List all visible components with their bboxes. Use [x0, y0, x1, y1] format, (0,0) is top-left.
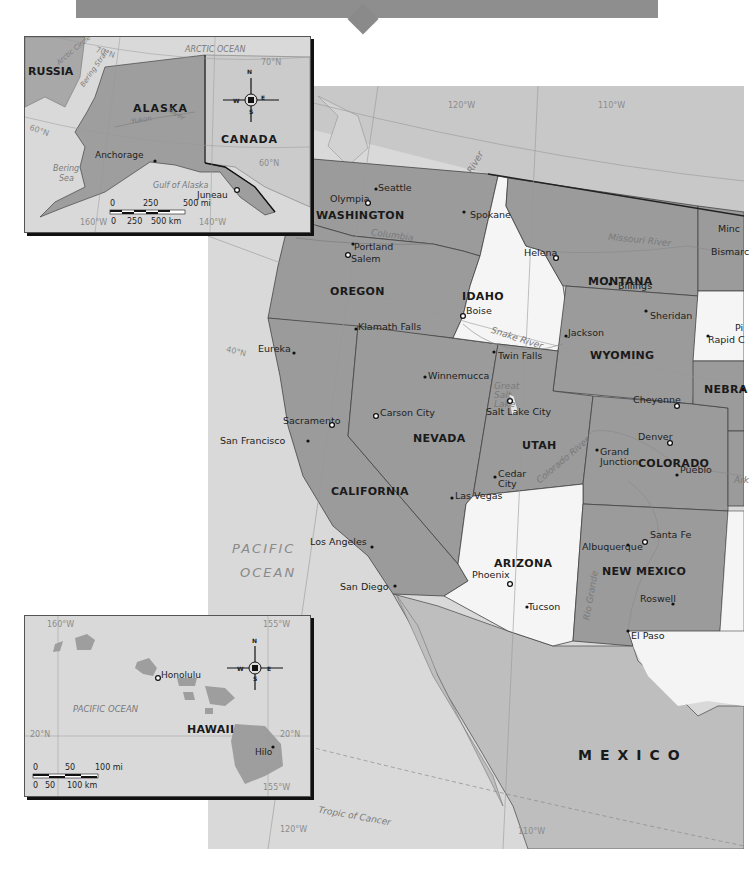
city-carson-city: Carson City	[380, 408, 435, 418]
compass-n: N	[252, 638, 257, 644]
city-klamath-falls: Klamath Falls	[358, 322, 421, 332]
city-pierre: Pi	[735, 323, 743, 333]
sea-label-bering-1: Bering	[53, 165, 79, 173]
sea-label-bering-2: Sea	[59, 175, 74, 183]
scale-km-250: 250	[127, 218, 142, 226]
city-honolulu: Honolulu	[161, 671, 201, 680]
grid-label-155w-bottom: 155°W	[263, 784, 290, 792]
compass-w: W	[237, 666, 244, 672]
state-label-wyoming: WYOMING	[590, 350, 654, 361]
city-eureka: Eureka	[258, 344, 291, 354]
scale-km-50: 50	[45, 782, 55, 790]
hawaii-inset: Honolulu Hilo HAWAII PACIFIC OCEAN 160°W…	[24, 615, 311, 797]
scale-km-0: 0	[111, 218, 116, 226]
grid-label-120w-bottom: 120°W	[280, 826, 307, 834]
grid-label-160w: 160°W	[47, 621, 74, 629]
city-tucson: Tucson	[528, 602, 560, 612]
compass-e: E	[261, 95, 265, 101]
city-rapid-city: Rapid C	[708, 335, 745, 345]
grid-label-20n-left: 20°N	[30, 731, 50, 739]
compass-w: W	[233, 98, 240, 104]
state-label-hawaii: HAWAII	[187, 724, 234, 735]
city-salem: Salem	[351, 254, 381, 264]
city-seattle: Seattle	[378, 183, 412, 193]
grid-label-110w-bottom: 110°W	[518, 828, 545, 836]
scale-km-0: 0	[33, 782, 38, 790]
city-bismarck: Bismarc	[711, 247, 749, 257]
state-label-utah: UTAH	[522, 440, 557, 451]
city-portland: Portland	[354, 242, 393, 252]
city-el-paso: El Paso	[631, 631, 665, 641]
grid-label-155w-top: 155°W	[263, 621, 290, 629]
city-grand-junction: Grand Junction	[600, 447, 640, 466]
compass-n: N	[247, 69, 252, 75]
city-jackson: Jackson	[568, 328, 604, 338]
city-sheridan: Sheridan	[650, 311, 692, 321]
grid-label-60n-b: 60°N	[259, 160, 279, 168]
country-label-russia: RUSSIA	[28, 66, 73, 77]
river-label-arkansas: Ark	[734, 476, 749, 485]
compass-rose-icon	[247, 77, 255, 85]
city-minot: Minc	[718, 224, 740, 234]
state-label-idaho: IDAHO	[462, 291, 504, 302]
city-billings: Billings	[618, 281, 652, 291]
city-cheyenne: Cheyenne	[633, 395, 681, 405]
state-label-washington: WASHINGTON	[316, 210, 404, 221]
city-roswell: Roswell	[640, 594, 676, 604]
state-label-oregon: OREGON	[330, 286, 385, 297]
compass-s: S	[253, 676, 257, 682]
city-helena: Helena	[524, 248, 557, 258]
scale-km-100: 100 km	[67, 782, 97, 790]
city-san-francisco: San Francisco	[220, 436, 285, 446]
city-los-angeles: Los Angeles	[310, 537, 367, 547]
lake-label-great-salt: Great Salt Lake	[494, 382, 534, 409]
compass-e: E	[267, 666, 271, 672]
grid-label-70n-b: 70°N	[261, 59, 281, 67]
city-albuquerque: Albuquerque	[582, 542, 643, 552]
ocean-label-pacific-2: OCEAN	[240, 566, 296, 579]
state-label-arizona: ARIZONA	[494, 558, 552, 569]
grid-label-160w: 160°W	[80, 219, 107, 227]
city-olympia: Olympia	[330, 194, 369, 204]
country-label-mexico: MEXICO	[578, 748, 688, 762]
scale-mi-50: 50	[65, 764, 75, 772]
compass-s: S	[249, 109, 253, 115]
scale-mi-250: 250	[143, 200, 158, 208]
state-label-nevada: NEVADA	[413, 433, 465, 444]
scale-mi-100: 100 mi	[95, 764, 123, 772]
city-san-diego: San Diego	[340, 582, 389, 592]
city-sacramento: Sacramento	[283, 416, 340, 426]
state-label-new-mexico: NEW MEXICO	[602, 566, 686, 577]
scale-mi-0: 0	[110, 200, 115, 208]
ocean-label-pacific: PACIFIC OCEAN	[73, 705, 138, 714]
ocean-label-pacific-1: PACIFIC	[232, 542, 295, 555]
state-label-nebraska: NEBRA	[704, 384, 748, 395]
city-pueblo: Pueblo	[680, 465, 712, 475]
city-winnemucca: Winnemucca	[428, 371, 489, 381]
scale-mi-500: 500 mi	[183, 200, 211, 208]
state-label-california: CALIFORNIA	[331, 486, 409, 497]
scale-mi-0: 0	[33, 764, 38, 772]
city-phoenix: Phoenix	[472, 570, 510, 580]
city-boise: Boise	[466, 306, 492, 316]
label-gulf-of-alaska: Gulf of Alaska	[153, 182, 208, 190]
ocean-label-arctic: ARCTIC OCEAN	[185, 46, 245, 54]
city-las-vegas: Las Vegas	[455, 491, 503, 501]
grid-label-140w: 140°W	[199, 219, 226, 227]
city-santa-fe: Santa Fe	[650, 530, 691, 540]
city-hilo: Hilo	[255, 748, 272, 757]
grid-label-110w: 110°W	[598, 102, 625, 110]
city-cedar-city: Cedar City	[498, 469, 528, 488]
scale-km-500: 500 km	[151, 218, 181, 226]
alaska-inset: RUSSIA ALASKA CANADA ARCTIC OCEAN Bering…	[24, 36, 311, 233]
country-label-canada: CANADA	[221, 134, 278, 145]
grid-label-120w: 120°W	[448, 102, 475, 110]
grid-label-20n-right: 20°N	[280, 731, 300, 739]
city-denver: Denver	[638, 432, 673, 442]
compass-rose-icon	[251, 664, 259, 672]
city-anchorage: Anchorage	[95, 151, 144, 160]
city-twin-falls: Twin Falls	[498, 351, 542, 361]
city-spokane: Spokane	[470, 210, 511, 220]
